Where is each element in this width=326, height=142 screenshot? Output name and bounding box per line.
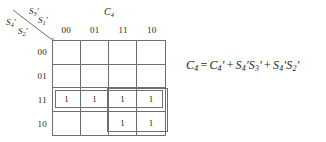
row-header-2: 11 — [28, 88, 49, 112]
equation-term-1: C4′ — [209, 58, 224, 72]
kmap-cell[interactable] — [53, 65, 81, 89]
row-headers: 00 01 11 10 — [28, 40, 49, 136]
karnaugh-map: 1 1 1 1 1 1 — [52, 40, 166, 136]
kmap-cell[interactable] — [109, 65, 137, 89]
kmap-cell[interactable]: 1 — [137, 112, 165, 136]
kmap-grid: 1 1 1 1 1 1 — [52, 40, 166, 136]
column-variable-label: C4 — [52, 6, 166, 19]
equation-term-3: S4′S2′ — [273, 58, 299, 72]
row-var-s1-label: S1′ — [38, 15, 48, 26]
equation-equals: = — [198, 58, 209, 72]
kmap-cell[interactable] — [81, 41, 109, 65]
equation-lhs: C4 — [186, 58, 198, 72]
row-header-3: 10 — [28, 112, 49, 136]
column-header-1: 01 — [81, 25, 110, 35]
column-header-0: 00 — [52, 25, 81, 35]
kmap-cell[interactable]: 1 — [81, 88, 109, 112]
equation-plus-2: + — [262, 58, 273, 72]
kmap-cell[interactable]: 1 — [137, 88, 165, 112]
kmap-cell[interactable] — [53, 112, 81, 136]
kmap-cell[interactable]: 1 — [109, 88, 137, 112]
equation-plus-1: + — [225, 58, 236, 72]
row-header-0: 00 — [28, 40, 49, 64]
kmap-corner-header: S3′ S1′ S4′ S2′ — [4, 4, 54, 42]
kmap-cell[interactable]: 1 — [53, 88, 81, 112]
kmap-cell[interactable] — [137, 41, 165, 65]
column-headers: 00 01 11 10 — [52, 25, 166, 35]
equation-term-2: S4′S3′ — [236, 58, 262, 72]
kmap-cell[interactable] — [81, 112, 109, 136]
column-header-2: 11 — [109, 25, 138, 35]
kmap-cell[interactable] — [137, 65, 165, 89]
kmap-cell[interactable] — [53, 41, 81, 65]
kmap-cell[interactable] — [109, 41, 137, 65]
kmap-cell[interactable]: 1 — [109, 112, 137, 136]
kmap-figure: S3′ S1′ S4′ S2′ C4 00 01 11 10 00 01 11 … — [0, 0, 326, 142]
boolean-equation: C4=C4′+S4′S3′+S4′S2′ — [186, 58, 300, 73]
row-var-s3-label: S2′ — [18, 26, 28, 37]
kmap-cell[interactable] — [81, 65, 109, 89]
row-header-1: 01 — [28, 64, 49, 88]
column-header-3: 10 — [138, 25, 167, 35]
row-var-s4-label: S4′ — [6, 17, 16, 28]
